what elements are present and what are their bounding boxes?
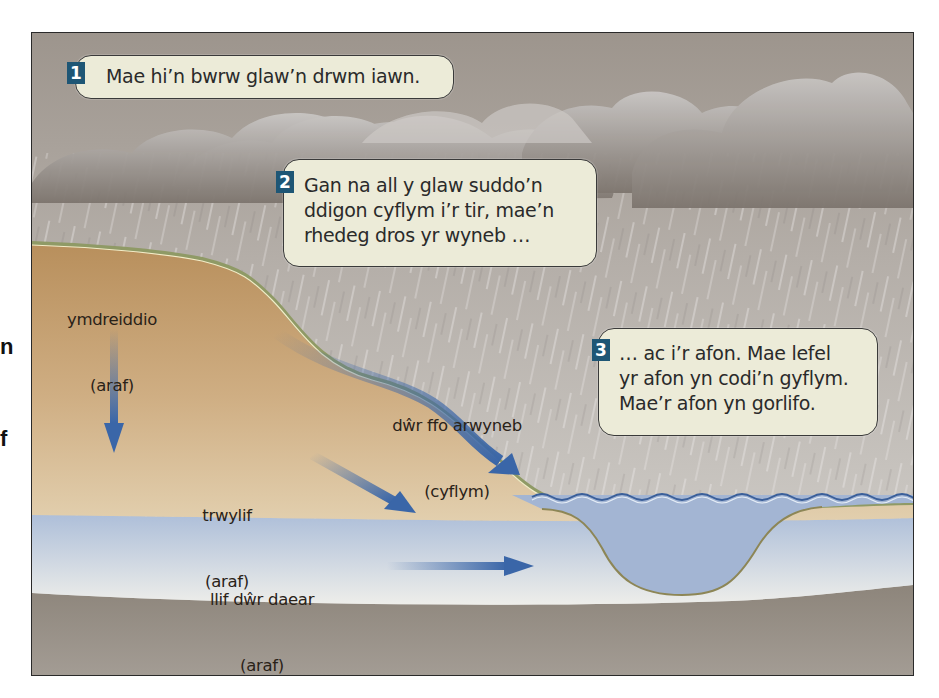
groundwater-flow-label: llif dŵr daear (araf) [182,545,342,676]
step-3-badge: 3 [592,339,610,361]
infiltration-name: ymdreiddio [47,309,177,331]
step-2-badge: 2 [276,171,294,193]
step-3-text: … ac i’r afon. Mae lefel yr afon yn codi… [619,341,849,416]
infiltration-label: ymdreiddio (araf) [47,265,177,441]
edge-text-fragment-1: n [0,334,14,360]
step-1-callout: Mae hi’n bwrw glaw’n drwm iawn. [75,55,454,99]
surface-runoff-name: dŵr ffo arwyneb [372,415,542,437]
edge-text-fragment-2: f [0,426,14,452]
step-2-callout: Gan na all y glaw suddo’n ddigon cyflym … [283,159,597,267]
groundwater-flow-name: llif dŵr daear [182,589,342,611]
flood-diagram: Mae hi’n bwrw glaw’n drwm iawn. 1 Gan na… [31,32,914,676]
groundwater-flow-speed: (araf) [182,655,342,676]
surface-runoff-speed: (cyflym) [372,481,542,503]
infiltration-speed: (araf) [47,375,177,397]
step-2-text: Gan na all y glaw suddo’n ddigon cyflym … [304,173,554,248]
step-1-badge: 1 [67,62,85,84]
step-3-callout: … ac i’r afon. Mae lefel yr afon yn codi… [598,328,878,436]
step-1-text: Mae hi’n bwrw glaw’n drwm iawn. [106,64,420,89]
throughflow-name: trwylif [182,505,272,527]
surface-runoff-label: dŵr ffo arwyneb (cyflym) [372,371,542,547]
